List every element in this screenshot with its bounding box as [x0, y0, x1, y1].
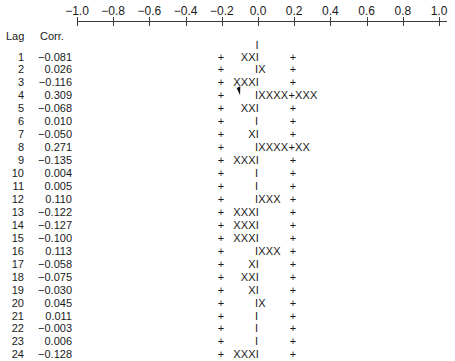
x-axis-line — [77, 21, 447, 22]
lag-value: 18 — [0, 271, 24, 283]
table-row: 160.113++IXXX — [0, 245, 455, 258]
x-axis-tick-label: 0.2 — [286, 4, 303, 18]
lower-limit-marker: + — [218, 63, 224, 75]
upper-limit-marker: + — [290, 154, 296, 166]
lag-value: 8 — [0, 141, 24, 153]
table-row: 3−0.116++XXXI — [0, 76, 455, 89]
lag-value: 4 — [0, 89, 24, 101]
upper-limit-marker: + — [290, 258, 296, 270]
table-row: 230.006++I — [0, 335, 455, 348]
corr-value: 0.113 — [30, 245, 72, 257]
table-row: 19−0.030++XI — [0, 284, 455, 297]
lower-limit-marker: + — [218, 115, 224, 127]
positive-bar: I — [255, 167, 258, 179]
x-axis-tick — [149, 17, 150, 26]
x-axis-tick — [439, 17, 440, 26]
upper-limit-marker: + — [290, 128, 296, 140]
negative-bar: XXXI — [233, 348, 259, 360]
positive-bar: IX — [255, 297, 266, 309]
corr-value: 0.011 — [30, 310, 72, 322]
x-axis-tick-label: −1.0 — [65, 4, 89, 18]
lower-limit-marker: + — [218, 348, 224, 360]
table-row: 60.010++I — [0, 115, 455, 128]
lag-value: 9 — [0, 154, 24, 166]
table-row: 100.004++I — [0, 167, 455, 180]
table-row: 210.011++I — [0, 310, 455, 323]
lag-value: 16 — [0, 245, 24, 257]
lag-value: 10 — [0, 167, 24, 179]
negative-bar: XI — [248, 284, 259, 296]
corr-value: 0.005 — [30, 180, 72, 192]
table-row: 120.110++IXXX — [0, 193, 455, 206]
x-axis-tick — [367, 17, 368, 26]
upper-limit-marker: + — [290, 206, 296, 218]
lag-value: 23 — [0, 335, 24, 347]
lower-limit-marker: + — [218, 128, 224, 140]
positive-bar: I — [255, 115, 258, 127]
lower-limit-marker: + — [218, 232, 224, 244]
upper-limit-marker: + — [290, 245, 296, 257]
upper-limit-marker: + — [290, 102, 296, 114]
negative-bar: XI — [248, 258, 259, 270]
corr-column-header: Corr. — [40, 30, 64, 42]
corr-value: −0.058 — [30, 258, 72, 270]
upper-limit-marker: + — [290, 63, 296, 75]
lower-limit-marker: + — [218, 245, 224, 257]
lag-value: 19 — [0, 284, 24, 296]
x-axis-tick — [403, 17, 404, 26]
corr-value: −0.127 — [30, 219, 72, 231]
corr-value: −0.003 — [30, 322, 72, 334]
lower-limit-marker: + — [218, 154, 224, 166]
table-row: 7−0.050++XI — [0, 128, 455, 141]
lag-value: 20 — [0, 297, 24, 309]
lower-limit-marker: + — [218, 89, 224, 101]
lower-limit-marker: + — [218, 193, 224, 205]
upper-limit-marker: + — [290, 348, 296, 360]
positive-bar: IXXXX+XXX — [255, 89, 318, 101]
table-row: 40.309++IXXXX+XXX — [0, 89, 455, 102]
upper-limit-marker: + — [290, 335, 296, 347]
table-row: 24−0.128++XXXI — [0, 348, 455, 361]
corr-value: 0.004 — [30, 167, 72, 179]
corr-value: −0.075 — [30, 271, 72, 283]
positive-bar: IXXX — [255, 193, 281, 205]
table-row: 1−0.081++XXI — [0, 51, 455, 64]
x-axis-tick — [186, 17, 187, 26]
table-row: 15−0.100++XXXI — [0, 232, 455, 245]
positive-bar: IX — [255, 63, 266, 75]
corr-value: 0.026 — [30, 63, 72, 75]
negative-bar: XXI — [241, 102, 259, 114]
corr-value: −0.050 — [30, 128, 72, 140]
lower-limit-marker: + — [218, 51, 224, 63]
upper-limit-marker: + — [290, 271, 296, 283]
corr-value: 0.271 — [30, 141, 72, 153]
positive-bar: IXXXX+XX — [255, 141, 310, 153]
x-axis-tick-label: 0.8 — [394, 4, 411, 18]
upper-limit-marker: + — [290, 297, 296, 309]
lower-limit-marker: + — [218, 271, 224, 283]
upper-limit-marker: + — [290, 310, 296, 322]
upper-limit-marker: + — [290, 180, 296, 192]
lower-limit-marker: + — [218, 322, 224, 334]
x-axis-tick-label: 0.6 — [358, 4, 375, 18]
lag-value: 6 — [0, 115, 24, 127]
corr-value: −0.081 — [30, 51, 72, 63]
table-row: 9−0.135++XXXI — [0, 154, 455, 167]
table-row: 80.271++IXXXX+XX — [0, 141, 455, 154]
x-axis-tick-label: −0.4 — [174, 4, 198, 18]
corr-value: −0.122 — [30, 206, 72, 218]
lag-value: 21 — [0, 310, 24, 322]
x-axis-tick-label: 1.0 — [431, 4, 448, 18]
lag-value: 15 — [0, 232, 24, 244]
negative-bar: XI — [248, 128, 259, 140]
corr-value: 0.309 — [30, 89, 72, 101]
lag-value: 5 — [0, 102, 24, 114]
x-axis-tick — [258, 17, 259, 26]
table-row: 5−0.068++XXI — [0, 102, 455, 115]
table-row: 17−0.058++XI — [0, 258, 455, 271]
lower-limit-marker: + — [218, 284, 224, 296]
upper-limit-marker: + — [290, 232, 296, 244]
lower-limit-marker: + — [218, 167, 224, 179]
lower-limit-marker: + — [218, 219, 224, 231]
x-axis-tick — [294, 17, 295, 26]
